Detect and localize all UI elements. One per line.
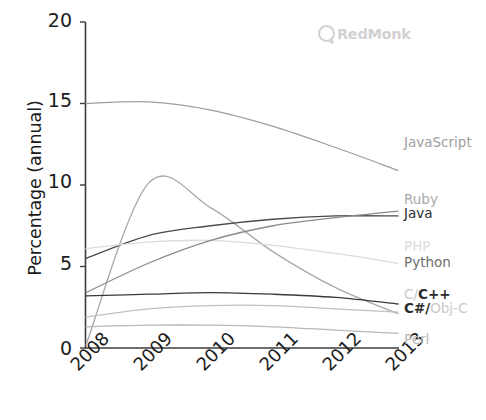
series-line-php — [86, 240, 398, 263]
series-line-c-obj-c — [86, 305, 398, 317]
series-lines — [86, 102, 398, 345]
y-axis-ticks — [80, 22, 86, 348]
series-label-java: Java — [404, 207, 433, 221]
series-label-javascript: JavaScript — [404, 136, 472, 150]
series-label-php: PHP — [404, 240, 430, 254]
redmonk-wordmark: RedMonk — [337, 26, 411, 42]
label-segment: Obj-C — [430, 300, 467, 316]
series-label-python: Python — [404, 256, 451, 270]
series-label-csharp-objc: C#/Obj-C — [404, 302, 467, 316]
redmonk-watermark: RedMonk — [318, 25, 411, 42]
series-line-ruby — [86, 176, 398, 345]
series-line-javascript — [86, 102, 398, 171]
redmonk-circle-icon — [318, 25, 335, 42]
series-line-python — [86, 211, 398, 292]
series-line-java — [86, 216, 398, 259]
series-label-perl: Perl — [404, 333, 429, 347]
label-segment: C#/ — [404, 300, 430, 316]
redmonk-language-trend-chart: Percentage (annual) 0 5 10 15 20 2008 20… — [0, 0, 486, 420]
